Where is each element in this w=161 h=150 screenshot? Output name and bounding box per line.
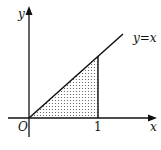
x-axis-label: x	[150, 120, 157, 134]
origin-label: O	[18, 120, 28, 134]
graph-svg: y x O 1 y=x	[0, 0, 161, 150]
y-axis-arrow-icon	[26, 6, 33, 15]
curve-label: y=x	[132, 31, 157, 45]
diagram-canvas: y x O 1 y=x	[0, 0, 161, 150]
y-axis-label: y	[17, 7, 25, 21]
tick-label-1: 1	[94, 120, 102, 134]
